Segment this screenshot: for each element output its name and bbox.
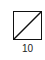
diagonal-slash-icon: [14, 12, 41, 39]
cell-label: 10: [13, 43, 42, 54]
diagram-cell-box: [13, 11, 42, 40]
